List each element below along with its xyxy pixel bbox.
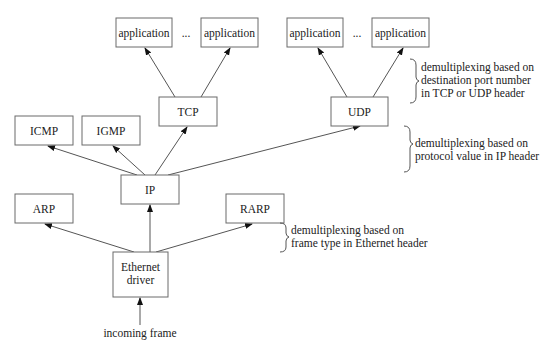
annotation-line: frame type in Ethernet header (291, 237, 428, 250)
incoming-frame-label: incoming frame (103, 327, 176, 340)
edge-ip-udp (168, 126, 360, 175)
annotation-line: destination port number (421, 74, 531, 87)
node-application-4: application (372, 18, 429, 47)
edge-tcp-app2 (201, 48, 230, 97)
edge-ip-icmp (48, 146, 137, 175)
node-application-2: application (201, 18, 258, 47)
annotation-line: demultiplexing based on (291, 224, 404, 237)
node-tcp: TCP (159, 97, 217, 126)
node-label: ICMP (30, 125, 58, 137)
node-label: application (118, 27, 169, 40)
node-label: RARP (240, 203, 270, 215)
node-label: TCP (177, 106, 198, 118)
edge-ip-igmp (113, 146, 145, 175)
node-arp: ARP (15, 194, 73, 223)
node-rarp: RARP (226, 194, 284, 223)
node-application-1: application (116, 18, 172, 47)
node-label: application (204, 27, 255, 40)
node-label-line1: Ethernet (121, 261, 161, 273)
node-label: IGMP (97, 125, 126, 137)
demultiplexing-diagram: application ... application application … (0, 0, 558, 344)
node-label: IP (145, 184, 155, 196)
annotation-link: demultiplexing based on frame type in Et… (280, 223, 428, 252)
node-label: application (375, 27, 426, 40)
annotation-line: demultiplexing based on (415, 137, 528, 150)
node-icmp: ICMP (15, 116, 73, 145)
node-label: UDP (348, 106, 371, 118)
annotation-line: protocol value in IP header (415, 150, 539, 163)
ellipsis: ... (182, 27, 191, 39)
edges (45, 48, 403, 325)
node-udp: UDP (331, 97, 388, 126)
node-label-line2: driver (127, 274, 155, 286)
brace-icon (280, 223, 289, 252)
node-label: application (289, 27, 340, 40)
node-ip: IP (121, 175, 179, 204)
brace-icon (404, 126, 413, 172)
edge-ethernet-arp (45, 224, 134, 252)
brace-icon (410, 59, 419, 103)
edge-tcp-app1 (145, 48, 175, 97)
edge-udp-app4 (373, 48, 403, 97)
node-label: ARP (33, 203, 55, 215)
node-ethernet-driver: Ethernet driver (113, 252, 168, 297)
edge-udp-app3 (318, 48, 347, 97)
annotation-network: demultiplexing based on protocol value i… (404, 126, 539, 172)
node-application-3: application (287, 18, 343, 47)
annotation-line: demultiplexing based on (421, 61, 534, 74)
edge-ip-tcp (155, 127, 187, 175)
edge-ethernet-rarp (156, 224, 252, 252)
ellipsis: ... (353, 27, 362, 39)
annotation-line: in TCP or UDP header (421, 87, 525, 99)
node-igmp: IGMP (82, 116, 140, 145)
annotation-transport: demultiplexing based on destination port… (410, 59, 534, 103)
